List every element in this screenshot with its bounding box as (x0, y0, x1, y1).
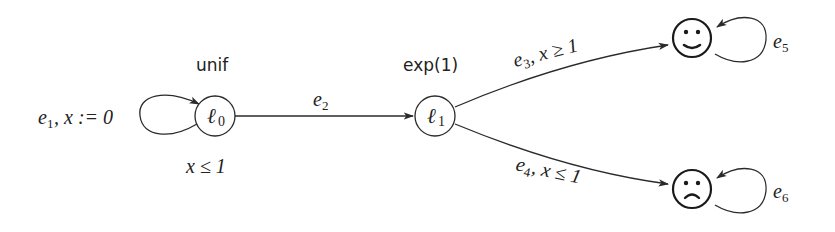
edge-e5-label: e 5 (773, 30, 789, 55)
e6-name: e (773, 180, 782, 202)
e1-name: e (38, 106, 47, 128)
l1-distribution-label: exp(1) (403, 55, 458, 75)
l0-invariant-label: x ≤ 1 (185, 155, 226, 177)
smiley-right-eye (696, 30, 700, 34)
edge-e6-label: e 6 (773, 180, 789, 205)
automaton-diagram: ℓ 0 ℓ 1 unif exp(1) x ≤ 1 e 1 , x := 0 e… (0, 0, 835, 232)
e1-reset: , x := 0 (54, 106, 113, 128)
frowny-left-eye (684, 181, 688, 185)
e2-subscript: 2 (322, 98, 329, 113)
e1-subscript: 1 (47, 116, 54, 131)
e6-subscript: 6 (782, 190, 789, 205)
node-l0: ℓ 0 (195, 96, 235, 136)
node-l1-subscript: 1 (438, 114, 445, 129)
edge-e1-label: e 1 , x := 0 (38, 106, 113, 131)
smiley-face-icon (673, 19, 711, 57)
e5-name: e (773, 30, 782, 52)
node-sad (673, 170, 711, 208)
edge-e1-self-loop (140, 95, 199, 134)
edge-e5-self-loop (715, 18, 766, 62)
e5-subscript: 5 (782, 40, 789, 55)
edge-e4-label: e 4 , x ≤ 1 (514, 152, 584, 190)
node-l0-subscript: 0 (218, 114, 225, 129)
edge-e6-self-loop (715, 169, 766, 213)
node-l0-name: ℓ (207, 104, 216, 128)
edge-e2-label: e 2 (313, 88, 329, 113)
node-happy (673, 19, 711, 57)
edge-e3-label: e 3 , x ≥ 1 (511, 34, 581, 74)
node-l1: ℓ 1 (415, 96, 455, 136)
frowny-right-eye (696, 181, 700, 185)
e3-guard: , x ≥ 1 (526, 34, 580, 67)
l0-distribution-label: unif (196, 55, 229, 75)
smiley-left-eye (684, 30, 688, 34)
diagram-svg: ℓ 0 ℓ 1 unif exp(1) x ≤ 1 e 1 , x := 0 e… (0, 0, 835, 232)
e2-name: e (313, 88, 322, 110)
frowny-face-icon (673, 170, 711, 208)
node-l1-name: ℓ (427, 104, 436, 128)
e4-guard: , x ≤ 1 (530, 156, 583, 188)
